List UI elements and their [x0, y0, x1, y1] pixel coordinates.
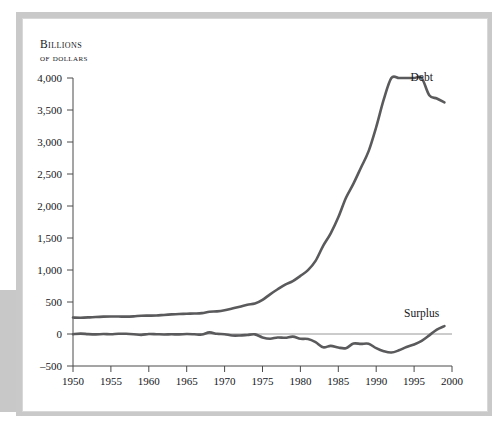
- x-tick-label: 1960: [138, 375, 161, 387]
- y-tick-label: 3,000: [37, 136, 62, 148]
- y-tick-label: 2,500: [37, 168, 62, 180]
- y-tick-label: –500: [39, 360, 63, 372]
- tick-marks-group: [67, 78, 452, 372]
- x-tick-label: 1950: [62, 375, 85, 387]
- x-tick-labels-group: 1950195519601965197019751980198519901995…: [62, 375, 464, 387]
- series-line-debt: [73, 76, 444, 317]
- plot-area: –50005001,0001,5002,0002,5003,0003,5004,…: [22, 18, 488, 412]
- line-chart: Billions of dollars –50005001,0001,5002,…: [22, 18, 488, 412]
- x-tick-label: 1980: [289, 375, 312, 387]
- y-tick-labels-group: –50005001,0001,5002,0002,5003,0003,5004,…: [37, 72, 62, 372]
- y-tick-label: 500: [46, 296, 63, 308]
- series-line-surplus: [73, 326, 444, 353]
- x-tick-label: 1995: [403, 375, 426, 387]
- x-tick-label: 2000: [441, 375, 464, 387]
- surplus-label: Surplus: [404, 307, 440, 320]
- y-tick-label: 2,000: [37, 200, 62, 212]
- y-tick-label: 0: [57, 328, 63, 340]
- x-tick-label: 1975: [252, 375, 275, 387]
- figure-page: Billions of dollars –50005001,0001,5002,…: [0, 0, 501, 430]
- y-tick-label: 3,500: [37, 104, 62, 116]
- x-tick-label: 1990: [365, 375, 388, 387]
- series-annotations-group: DebtSurplus: [404, 71, 440, 320]
- y-tick-label: 1,500: [37, 232, 62, 244]
- y-tick-label: 1,000: [37, 264, 62, 276]
- x-tick-label: 1970: [214, 375, 237, 387]
- x-tick-label: 1955: [100, 375, 123, 387]
- x-tick-label: 1985: [327, 375, 350, 387]
- x-tick-label: 1965: [176, 375, 199, 387]
- y-tick-label: 4,000: [37, 72, 62, 84]
- debt-label: Debt: [411, 71, 434, 83]
- data-series-group: [73, 76, 444, 352]
